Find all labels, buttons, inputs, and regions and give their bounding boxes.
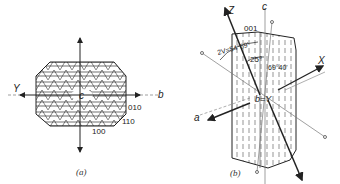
face-001-label: 001	[244, 24, 258, 33]
b-axis-label: b	[158, 89, 164, 100]
x-axis-label: X	[317, 55, 325, 66]
optic-axis-end-icon	[271, 21, 274, 24]
c-axis-label: c	[262, 1, 267, 12]
b-equals-y-label: b=Y	[255, 94, 272, 104]
face-110-label: 110	[122, 117, 135, 126]
optic-axis-end-icon	[201, 52, 204, 55]
a-axis-label: a	[194, 112, 200, 123]
c-axis-label: c	[79, 90, 84, 101]
panel-b: Z c X a b=Y 001 2V=54°69' 25° 69°40' (b)	[194, 1, 327, 184]
face-100-label: 100	[92, 127, 106, 136]
angle-69-40-label: 69°40'	[268, 64, 288, 71]
optic-axis-end-icon	[256, 171, 259, 174]
caption-a: (a)	[76, 167, 87, 177]
z-axis-label: Z	[227, 5, 235, 16]
crystal-diagram: Y b c 010 110 100 (a) Z c X a	[0, 0, 340, 184]
y-axis-label: Y	[13, 83, 21, 94]
caption-b: (b)	[230, 168, 241, 178]
panel-a: Y b c 010 110 100 (a)	[8, 38, 164, 177]
optic-axis-end-icon	[324, 136, 327, 139]
face-010-label: 010	[128, 103, 142, 112]
angle-25-label: 25°	[250, 55, 262, 64]
